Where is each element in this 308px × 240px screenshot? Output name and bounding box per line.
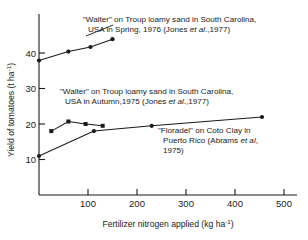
x-tick-label-300: 300 — [178, 198, 194, 209]
y-tick-label-10: 10 — [25, 154, 36, 165]
annotation-floradel-line1: "Floradel" on Coto Clay in — [158, 126, 251, 135]
data-point — [84, 122, 88, 126]
data-point — [88, 45, 92, 49]
y-tick-label-20: 20 — [25, 119, 36, 130]
data-point — [110, 37, 114, 41]
annotation-autumn-line2: USA in Autumn,1975 (Jones et al.,1977) — [65, 97, 209, 106]
data-point — [66, 120, 70, 124]
y-tick-label-40: 40 — [25, 48, 36, 59]
data-point — [37, 154, 41, 158]
y-axis-ticks — [39, 53, 45, 160]
data-point — [101, 124, 105, 128]
annotation-floradel-line3: 1975) — [163, 146, 184, 155]
data-point — [92, 129, 96, 133]
chart-plot-area: 40 30 20 10 100 200 300 400 500 Fertiliz… — [0, 0, 308, 240]
series-spring-1976 — [37, 37, 115, 63]
x-tick-label-100: 100 — [80, 198, 96, 209]
x-tick-label-400: 400 — [227, 198, 243, 209]
x-axis-title: Fertilizer nitrogen applied (kg ha-1) — [102, 218, 233, 229]
data-point — [150, 124, 154, 128]
x-tick-label-500: 500 — [276, 198, 292, 209]
annotation-spring-line1: "Walter" on Troup loamy sand in South Ca… — [83, 15, 256, 24]
annotation-spring-line2: USA in Spring, 1976 (Jones et al.,1977) — [88, 25, 231, 34]
annotation-autumn-line1: "Walter" on Troup loamy sand in South Ca… — [60, 87, 233, 96]
x-axis-ticks — [88, 189, 284, 195]
data-point — [37, 58, 41, 62]
annotation-floradel-line2: Puerto Rico (Abrams et al, — [163, 136, 258, 145]
y-axis-title: Yield of tomatoes (t ha-1) — [5, 63, 16, 157]
data-point — [66, 50, 70, 54]
y-tick-label-30: 30 — [25, 83, 36, 94]
data-point — [49, 129, 53, 133]
chart-figure: 40 30 20 10 100 200 300 400 500 Fertiliz… — [0, 0, 308, 240]
x-tick-label-200: 200 — [129, 198, 145, 209]
data-point — [260, 115, 264, 119]
